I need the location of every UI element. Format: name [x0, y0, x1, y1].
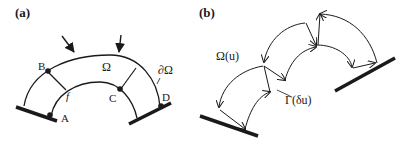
fiber-line-right [120, 68, 136, 90]
deformed-region-label: Ω(u) [216, 49, 239, 63]
point-b [45, 68, 51, 74]
support-left [200, 116, 258, 136]
boundary-label: ∂Ω [158, 63, 173, 77]
deformed-arc-1 [219, 66, 263, 107]
region-omega-label: Ω [102, 60, 111, 74]
deformed-inner-arc-2 [285, 47, 316, 80]
load-arrow-left-icon [62, 36, 74, 52]
point-b-label: B [38, 60, 45, 72]
deformed-inner-arc-1 [245, 92, 270, 129]
fiber-line-left [48, 72, 66, 90]
panel-b: (b) Ω(u) Γ(δu) [199, 5, 395, 136]
deformed-arc-3 [320, 14, 377, 63]
point-d-label: D [162, 91, 170, 103]
edge-6 [353, 63, 375, 68]
support-right [335, 58, 395, 91]
boundary-leader-line [157, 78, 160, 84]
deformed-arc-2 [264, 23, 305, 62]
panel-a: (a) A B C D Ω ∂Ω f [15, 5, 173, 124]
figure: (a) A B C D Ω ∂Ω f (b) [0, 0, 410, 143]
panel-b-label: (b) [199, 5, 215, 20]
edge-4 [306, 23, 316, 45]
point-c [117, 86, 123, 92]
point-a [47, 112, 53, 118]
edge-5 [318, 14, 320, 45]
point-a-label: A [61, 112, 69, 124]
panel-a-label: (a) [15, 5, 30, 20]
point-d [158, 103, 164, 109]
point-c-label: C [109, 92, 116, 104]
fiber-f-label: f [66, 90, 71, 102]
deformed-inner-arc-3 [317, 45, 352, 67]
load-arrow-right-icon [119, 35, 121, 52]
